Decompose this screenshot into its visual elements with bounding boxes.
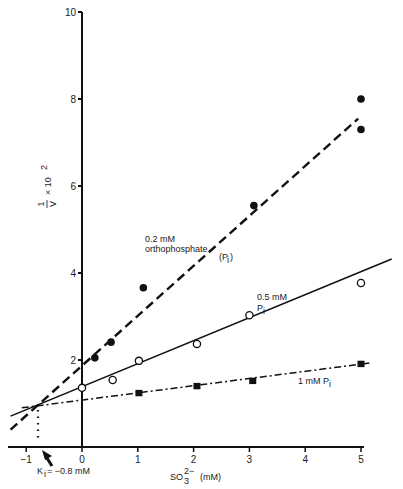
svg-text:i: i — [263, 306, 265, 316]
x-tick-label: 2 — [191, 454, 197, 465]
series-label-0.2mM: 0.2 mM orthophosphate (P i ) — [145, 234, 233, 265]
data-point — [358, 361, 365, 367]
x-tick-label: 4 — [302, 454, 308, 465]
svg-text:SO: SO — [170, 472, 183, 482]
data-point — [109, 376, 116, 383]
svg-text:K: K — [37, 466, 43, 476]
svg-text:2: 2 — [39, 165, 49, 170]
y-axis-label: 1 V × 10 2 — [36, 165, 58, 208]
data-point — [249, 378, 256, 384]
data-point — [246, 312, 253, 319]
data-point — [140, 284, 148, 292]
data-point — [78, 384, 85, 391]
plot-svg: 246810 −1012345 1 V × 10 2 SO 3 2− (mM) — [0, 0, 403, 489]
lineweaver-burk-plot: 246810 −1012345 1 V × 10 2 SO 3 2− (mM) — [0, 0, 403, 489]
data-point — [135, 390, 142, 396]
y-tick-label: 10 — [65, 7, 77, 18]
x-tick-label: 3 — [247, 454, 253, 465]
svg-text:× 10: × 10 — [43, 177, 53, 195]
data-point — [91, 354, 99, 362]
data-point — [107, 338, 115, 346]
data-point — [357, 95, 365, 103]
fit-lines — [11, 119, 392, 430]
x-axis-label: SO 3 2− (mM) — [170, 466, 221, 486]
svg-text:1: 1 — [36, 201, 46, 206]
svg-text:1 mM P: 1 mM P — [298, 376, 329, 386]
y-tick-label: 8 — [70, 94, 76, 105]
x-ticks: −1012345 — [20, 447, 364, 465]
y-tick-label: 2 — [70, 355, 76, 366]
y-ticks: 246810 — [65, 7, 82, 366]
svg-text:i: i — [227, 255, 229, 265]
data-point — [193, 383, 200, 389]
data-point — [357, 279, 364, 286]
svg-text:i: i — [329, 379, 331, 389]
arrow-icon — [42, 450, 52, 466]
series-label-1mM: 1 mM P i — [298, 376, 331, 389]
svg-text:V: V — [48, 201, 58, 207]
svg-text:2−: 2− — [184, 466, 194, 476]
data-point — [135, 357, 142, 364]
data-point — [193, 340, 200, 347]
x-tick-label: 5 — [358, 454, 364, 465]
svg-text:= −0.8 mM: = −0.8 mM — [47, 466, 90, 476]
data-point — [250, 202, 258, 210]
svg-text:0.5 mM: 0.5 mM — [257, 292, 287, 302]
y-tick-label: 6 — [70, 181, 76, 192]
svg-text:0.2 mM: 0.2 mM — [145, 234, 175, 244]
svg-text:): ) — [230, 252, 233, 262]
x-tick-label: 1 — [135, 454, 141, 465]
svg-text:(mM): (mM) — [200, 472, 221, 482]
svg-text:i: i — [44, 469, 46, 479]
fit-line — [11, 259, 392, 416]
data-markers — [78, 95, 364, 396]
x-tick-label: 0 — [79, 454, 85, 465]
ki-annotation: K i = −0.8 mM — [37, 466, 90, 479]
y-tick-label: 4 — [70, 268, 76, 279]
data-point — [357, 126, 365, 134]
svg-text:3: 3 — [184, 476, 189, 486]
svg-text:orthophosphate: orthophosphate — [145, 244, 208, 254]
x-tick-label: −1 — [20, 454, 32, 465]
